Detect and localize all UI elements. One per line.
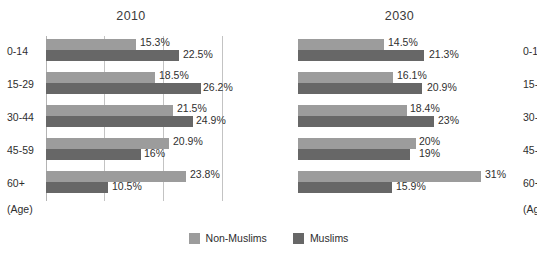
bar-value-non-muslims: 20% [419, 135, 440, 147]
bar-value-non-muslims: 23.8% [190, 168, 220, 180]
bar-value-muslims: 10.5% [112, 180, 142, 192]
table-row: 45-59 20.9% 16% [0, 135, 262, 168]
bar-value-non-muslims: 20.9% [173, 135, 203, 147]
bar-muslims [298, 149, 410, 160]
bar-muslims [298, 83, 422, 94]
bar-non-muslims [298, 105, 407, 116]
bar-rows-2030: 0-14 14.5% 21.3% 15-29 16.1% 20.9% 30-44… [262, 36, 537, 201]
legend-label-non-muslims: Non-Muslims [206, 232, 267, 244]
bar-non-muslims [298, 171, 481, 182]
table-row: 15-29 18.5% 26.2% [0, 69, 262, 102]
row-label-45-59: 45-59 [7, 144, 43, 156]
bar-value-non-muslims: 14.5% [388, 36, 418, 48]
bar-non-muslims [298, 39, 384, 50]
bar-value-muslims: 20.9% [427, 81, 457, 93]
panel-title-2030: 2030 [262, 9, 537, 23]
bar-rows-2010: 0-14 15.3% 22.5% 15-29 18.5% 26.2% 30-44… [0, 36, 262, 201]
bar-muslims [46, 149, 141, 160]
row-label-15-29: 15-29 [7, 78, 43, 90]
bar-non-muslims [46, 105, 173, 116]
age-caption-2010: (Age) [7, 203, 33, 215]
bar-value-muslims: 26.2% [203, 81, 233, 93]
legend-label-muslims: Muslims [310, 232, 349, 244]
bar-non-muslims [298, 72, 393, 83]
bar-value-muslims: 21.3% [429, 48, 459, 60]
chart-panel-2030: 2030 0-14 14.5% 21.3% 15-29 16.1% 20.9% [262, 0, 537, 222]
table-row: 60+ 31% 15.9% [262, 168, 537, 201]
panel-title-2010: 2010 [0, 9, 262, 23]
bar-non-muslims [298, 138, 416, 149]
legend-swatch-icon [293, 233, 304, 244]
bar-muslims [298, 182, 392, 193]
bar-non-muslims [46, 39, 136, 50]
bar-value-non-muslims: 18.5% [159, 69, 189, 81]
table-row: 0-14 14.5% 21.3% [262, 36, 537, 69]
row-label-0-14: 0-14 [7, 45, 43, 57]
table-row: 60+ 23.8% 10.5% [0, 168, 262, 201]
chart-panel-2010: 2010 0-14 15.3% 22.5% 15-29 18.5% 26.2% [0, 0, 262, 222]
age-caption-2030: (Age) [523, 203, 537, 215]
table-row: 0-14 15.3% 22.5% [0, 36, 262, 69]
legend-swatch-icon [189, 233, 200, 244]
table-row: 45-59 20% 19% [262, 135, 537, 168]
bar-value-non-muslims: 16.1% [397, 69, 427, 81]
chart-legend: Non-Muslims Muslims [0, 232, 537, 244]
bar-value-muslims: 16% [144, 147, 165, 159]
bar-muslims [46, 83, 201, 94]
row-label-30-44: 30-44 [523, 111, 537, 123]
bar-value-non-muslims: 15.3% [140, 36, 170, 48]
bar-value-muslims: 22.5% [183, 48, 213, 60]
table-row: 30-44 21.5% 24.9% [0, 102, 262, 135]
chart-figure: 2010 0-14 15.3% 22.5% 15-29 18.5% 26.2% [0, 0, 537, 258]
bar-value-muslims: 24.9% [196, 114, 226, 126]
table-row: 30-44 18.4% 23% [262, 102, 537, 135]
bar-muslims [298, 50, 424, 61]
row-label-60plus: 60+ [523, 177, 537, 189]
row-label-60plus: 60+ [7, 177, 43, 189]
row-label-0-14: 0-14 [523, 45, 537, 57]
bar-muslims [46, 116, 193, 127]
bar-value-muslims: 19% [419, 147, 440, 159]
legend-item-non-muslims[interactable]: Non-Muslims [189, 232, 267, 244]
bar-value-non-muslims: 31% [485, 168, 506, 180]
row-label-45-59: 45-59 [523, 144, 537, 156]
bar-value-muslims: 23% [438, 114, 459, 126]
bar-value-non-muslims: 18.4% [410, 102, 440, 114]
row-label-30-44: 30-44 [7, 111, 43, 123]
row-label-15-29: 15-29 [523, 78, 537, 90]
bar-muslims [298, 116, 434, 127]
bar-value-muslims: 15.9% [396, 180, 426, 192]
bar-value-non-muslims: 21.5% [177, 102, 207, 114]
legend-item-muslims[interactable]: Muslims [293, 232, 349, 244]
bar-muslims [46, 50, 179, 61]
bar-muslims [46, 182, 108, 193]
table-row: 15-29 16.1% 20.9% [262, 69, 537, 102]
bar-non-muslims [46, 72, 155, 83]
